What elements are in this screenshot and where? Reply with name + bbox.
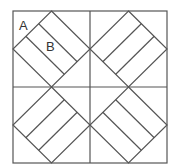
stripe-line (116, 36, 155, 74)
diamond-bottom-right (90, 87, 167, 163)
stripe-line (39, 24, 77, 62)
quadrant-bottom-left (13, 87, 90, 163)
stripe-line (116, 100, 155, 138)
quadrant-bottom-right (90, 87, 167, 163)
diamond-bottom-left (13, 87, 90, 163)
diamond-top-right (90, 11, 167, 87)
stripe-line (103, 112, 142, 150)
label-b: B (46, 39, 55, 54)
quadrant-top-right (90, 11, 167, 87)
label-a: A (19, 18, 28, 33)
stripe-line (26, 100, 65, 138)
stripe-line (103, 24, 142, 62)
quilt-block-diagram: A B (0, 0, 178, 167)
stripe-line (39, 112, 77, 150)
